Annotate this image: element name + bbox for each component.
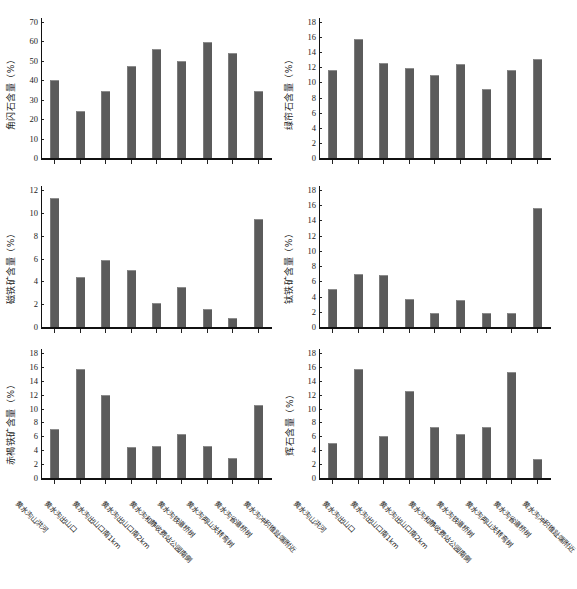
y-axis-tick-label: 0 — [312, 153, 316, 163]
y-axis-tick-label: 6 — [34, 431, 38, 441]
bar — [76, 369, 85, 478]
y-axis-tick-label: 2 — [34, 299, 38, 309]
x-axis-tick-marks — [320, 329, 550, 333]
y-axis-tick-label: 30 — [30, 95, 39, 105]
y-axis-title: 绿帘石含量（%） — [279, 0, 299, 185]
bar — [482, 89, 491, 158]
bar — [405, 68, 414, 158]
y-axis-tick-label: 10 — [308, 404, 317, 414]
y-axis-tick-label: 4 — [34, 445, 38, 455]
bar — [507, 372, 516, 478]
y-axis-tick-label: 70 — [30, 17, 39, 27]
x-axis-tick-marks — [42, 480, 271, 484]
y-axis-tick-label: 0 — [34, 322, 38, 332]
plot-area: 024681012141618 — [21, 348, 272, 496]
y-axis-tick-label: 16 — [308, 32, 317, 42]
y-axis-tick-label: 2 — [312, 138, 316, 148]
plot-area: 024681012141618 — [299, 0, 551, 185]
y-axis-tick-label: 6 — [312, 276, 316, 286]
plot-area: 010203040506070 — [21, 0, 272, 185]
bar — [430, 75, 439, 158]
y-axis-tick-label: 16 — [308, 200, 317, 210]
y-axis-title: 赤褐铁矿含量（%） — [1, 348, 21, 496]
bar — [203, 309, 212, 327]
bar — [507, 70, 516, 158]
bar — [405, 391, 414, 478]
bar — [482, 313, 491, 327]
bar — [507, 313, 516, 327]
bar — [328, 289, 337, 327]
y-axis-tick-label: 2 — [312, 459, 316, 469]
chart-panel-hematite-limonite: 赤褐铁矿含量（%）024681012141618 — [0, 348, 278, 496]
bar-series — [320, 22, 550, 158]
y-axis-tick-label: 50 — [30, 56, 39, 66]
y-axis-tick-label: 4 — [34, 276, 38, 286]
chart-panel-magnetite: 磁铁矿含量（%）024681012 — [0, 185, 278, 348]
bar — [328, 70, 337, 158]
x-axis-tick-marks — [42, 160, 271, 164]
y-axis-tick-labels: 024681012141618 — [299, 348, 319, 496]
y-axis-tick-label: 18 — [308, 348, 317, 358]
bar — [228, 53, 237, 158]
y-axis-tick-label: 16 — [308, 362, 317, 372]
plot-area: 024681012141618 — [299, 348, 551, 496]
y-axis-tick-label: 14 — [308, 47, 317, 57]
bar — [76, 111, 85, 158]
y-axis-tick-label: 10 — [30, 404, 39, 414]
bar — [177, 61, 186, 158]
x-category-labels-right: 黄水沟山洪河黄水沟出山口黄水沟出山口南1km黄水沟出山口南2km黄水沟和静收费站… — [278, 496, 557, 589]
y-axis-tick-label: 18 — [308, 17, 317, 27]
bar — [50, 80, 59, 158]
y-axis-tick-label: 8 — [312, 93, 316, 103]
bar — [228, 318, 237, 327]
x-axis-tick-marks — [320, 480, 550, 484]
bar — [50, 429, 59, 478]
bar — [152, 303, 161, 327]
bar — [430, 427, 439, 478]
y-axis-tick-label: 40 — [30, 75, 39, 85]
y-axis-tick-label: 12 — [30, 185, 39, 195]
x-axis-category-labels: 黄水沟山洪河黄水沟出山口黄水沟出山口南1km黄水沟出山口南2km黄水沟和静收费站… — [21, 496, 277, 589]
y-axis-tick-labels: 024681012141618 — [21, 348, 41, 496]
bar — [152, 49, 161, 158]
bar-series — [320, 190, 550, 327]
bar — [354, 274, 363, 327]
y-axis-tick-label: 6 — [312, 431, 316, 441]
bar — [177, 434, 186, 478]
chart-panel-pyroxene: 辉石含量（%）024681012141618 — [278, 348, 557, 496]
y-axis-title-text: 辉石含量（%） — [283, 389, 296, 455]
plot-area: 024681012141618 — [299, 185, 551, 348]
y-axis-tick-label: 14 — [308, 215, 317, 225]
bar — [254, 405, 263, 478]
x-category-labels-left: 黄水沟山洪河黄水沟出山口黄水沟出山口南1km黄水沟出山口南2km黄水沟和静收费站… — [0, 496, 278, 589]
y-axis-tick-label: 60 — [30, 36, 39, 46]
y-axis-tick-label: 4 — [312, 445, 316, 455]
y-axis-tick-label: 10 — [308, 246, 317, 256]
x-axis-tick-marks — [320, 160, 550, 164]
y-axis-title: 辉石含量（%） — [279, 348, 299, 496]
bar — [328, 443, 337, 478]
y-axis-tick-label: 10 — [30, 134, 39, 144]
chart-panel-amphibole: 角闪石含量（%）010203040506070 — [0, 0, 278, 185]
y-axis-title: 钛铁矿含量（%） — [279, 185, 299, 348]
y-axis-tick-label: 14 — [30, 376, 39, 386]
y-axis-tick-label: 4 — [312, 123, 316, 133]
y-axis-tick-label: 14 — [308, 376, 317, 386]
y-axis-tick-label: 0 — [34, 473, 38, 483]
y-axis-tick-label: 12 — [308, 62, 317, 72]
y-axis-tick-label: 2 — [34, 459, 38, 469]
bar — [101, 395, 110, 478]
bar — [456, 300, 465, 327]
bar — [354, 39, 363, 158]
x-axis-category-labels: 黄水沟山洪河黄水沟出山口黄水沟出山口南1km黄水沟出山口南2km黄水沟和静收费站… — [299, 496, 556, 589]
y-axis-title: 角闪石含量（%） — [1, 0, 21, 185]
bar — [152, 446, 161, 478]
bar — [50, 198, 59, 327]
bar — [127, 66, 136, 158]
x-axis-tick-marks — [42, 329, 271, 333]
bar — [177, 287, 186, 327]
y-axis-title: 磁铁矿含量（%） — [1, 185, 21, 348]
bar-series — [320, 353, 550, 478]
y-axis-tick-label: 6 — [34, 254, 38, 264]
y-axis-tick-label: 12 — [308, 390, 317, 400]
